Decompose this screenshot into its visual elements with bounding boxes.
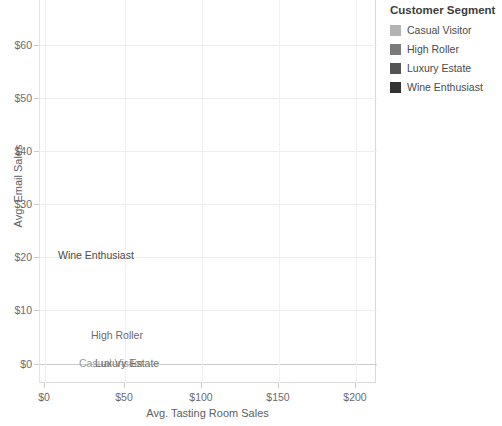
x-tick-mark-50 bbox=[124, 383, 125, 388]
legend-item-label: Wine Enthusiast bbox=[407, 81, 483, 93]
y-tick-mark-30 bbox=[34, 204, 39, 205]
gridline-x-50 bbox=[125, 0, 126, 383]
legend-swatch-icon bbox=[390, 25, 401, 36]
x-tick-mark-150 bbox=[278, 383, 279, 388]
legend-item-luxury-estate[interactable]: Luxury Estate bbox=[390, 59, 502, 77]
gridline-x-100 bbox=[202, 0, 203, 383]
x-tick-mark-100 bbox=[201, 383, 202, 388]
legend-item-wine-enthusiast[interactable]: Wine Enthusiast bbox=[390, 78, 502, 96]
legend-swatch-icon bbox=[390, 63, 401, 74]
gridline-y-50 bbox=[40, 98, 377, 99]
scatter-chart: Wine Enthusiast High Roller Casual Visit… bbox=[0, 0, 502, 426]
legend-item-label: Casual Visitor bbox=[407, 24, 472, 36]
y-tick-label-0: $0 bbox=[0, 358, 32, 370]
x-tick-mark-200 bbox=[355, 383, 356, 388]
y-tick-label-10: $10 bbox=[0, 304, 32, 316]
gridline-y-40 bbox=[40, 151, 377, 152]
x-tick-label-150: $150 bbox=[266, 391, 289, 403]
legend-item-label: High Roller bbox=[407, 43, 459, 55]
point-label-wine-enthusiast[interactable]: Wine Enthusiast bbox=[58, 249, 134, 261]
x-tick-mark-0 bbox=[44, 383, 45, 388]
x-tick-label-0: $0 bbox=[38, 391, 50, 403]
x-tick-label-100: $100 bbox=[189, 391, 212, 403]
x-tick-label-200: $200 bbox=[343, 391, 366, 403]
x-axis-title: Avg. Tasting Room Sales bbox=[39, 407, 376, 419]
gridline-y-10 bbox=[40, 310, 377, 311]
gridline-y-60 bbox=[40, 45, 377, 46]
point-label-high-roller[interactable]: High Roller bbox=[91, 329, 143, 341]
y-tick-mark-60 bbox=[34, 45, 39, 46]
legend-item-casual-visitor[interactable]: Casual Visitor bbox=[390, 21, 502, 39]
y-tick-mark-50 bbox=[34, 98, 39, 99]
x-tick-label-50: $50 bbox=[115, 391, 133, 403]
y-tick-label-50: $50 bbox=[0, 92, 32, 104]
y-tick-label-60: $60 bbox=[0, 39, 32, 51]
legend-title: Customer Segment bbox=[390, 4, 502, 16]
y-tick-mark-20 bbox=[34, 257, 39, 258]
legend-item-label: Luxury Estate bbox=[407, 62, 471, 74]
gridline-x-0 bbox=[45, 0, 46, 383]
gridline-y-30 bbox=[40, 204, 377, 205]
legend: Customer Segment Casual Visitor High Rol… bbox=[390, 4, 502, 97]
plot-area: Wine Enthusiast High Roller Casual Visit… bbox=[39, 0, 376, 383]
y-tick-mark-0 bbox=[34, 364, 39, 365]
y-tick-mark-40 bbox=[34, 151, 39, 152]
legend-swatch-icon bbox=[390, 82, 401, 93]
y-axis-title: Avg. Email Sales bbox=[12, 106, 24, 266]
y-tick-mark-10 bbox=[34, 310, 39, 311]
gridline-x-200 bbox=[356, 0, 357, 383]
legend-swatch-icon bbox=[390, 44, 401, 55]
legend-item-high-roller[interactable]: High Roller bbox=[390, 40, 502, 58]
point-label-luxury-estate[interactable]: Luxury Estate bbox=[95, 357, 159, 369]
gridline-x-150 bbox=[279, 0, 280, 383]
